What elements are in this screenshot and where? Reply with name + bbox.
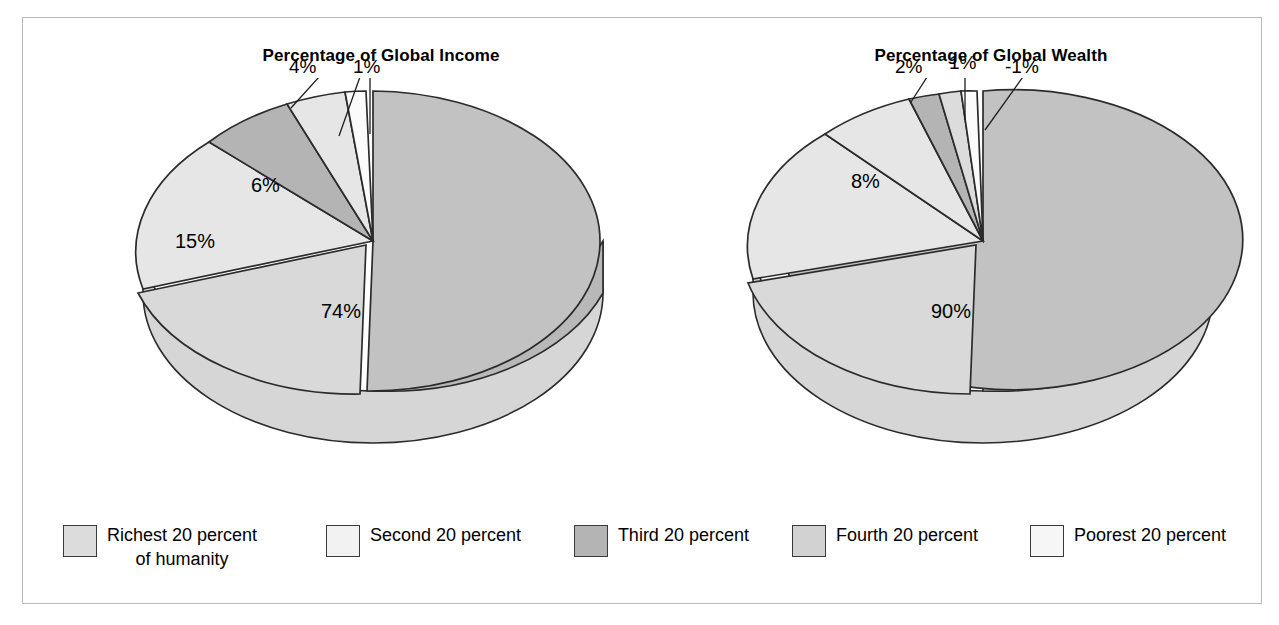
legend-swatch-fourth bbox=[792, 525, 826, 557]
legend-label-third: Third 20 percent bbox=[618, 523, 749, 547]
legend-swatch-third bbox=[574, 525, 608, 557]
chart-title-wealth: Percentage of Global Wealth bbox=[751, 46, 1231, 66]
chart-title-income: Percentage of Global Income bbox=[141, 46, 621, 66]
pie-svg-wealth bbox=[733, 78, 1253, 478]
legend-swatch-second bbox=[326, 525, 360, 557]
pie-label-wealth-neg1: -1% bbox=[1005, 56, 1039, 78]
pie-label-income-74: 74% bbox=[321, 300, 361, 323]
legend-item-poorest: Poorest 20 percent bbox=[1030, 523, 1259, 557]
figure-frame: Percentage of Global Income bbox=[22, 17, 1262, 604]
legend-swatch-poorest bbox=[1030, 525, 1064, 557]
legend: Richest 20 percent of humanity Second 20… bbox=[63, 523, 1263, 603]
legend-label-second: Second 20 percent bbox=[370, 523, 521, 547]
pie-label-income-6: 6% bbox=[251, 174, 280, 197]
legend-label-fourth: Fourth 20 percent bbox=[836, 523, 978, 547]
pie-chart-income: 74% 15% 6% 4% 1% bbox=[123, 78, 643, 478]
pie-svg-income bbox=[123, 78, 643, 478]
legend-item-second: Second 20 percent bbox=[326, 523, 570, 557]
pie-label-wealth-90: 90% bbox=[931, 300, 971, 323]
legend-swatch-richest bbox=[63, 525, 97, 557]
pie-label-income-15: 15% bbox=[175, 230, 215, 253]
legend-item-richest: Richest 20 percent of humanity bbox=[63, 523, 322, 571]
legend-item-third: Third 20 percent bbox=[574, 523, 788, 557]
pie-label-income-1: 1% bbox=[353, 56, 380, 78]
pie-label-wealth-2: 2% bbox=[895, 56, 922, 78]
legend-label-richest: Richest 20 percent of humanity bbox=[107, 523, 257, 571]
pie-chart-wealth: 90% 8% 2% 1% -1% bbox=[733, 78, 1253, 478]
legend-label-poorest: Poorest 20 percent bbox=[1074, 523, 1226, 547]
pie-label-income-4: 4% bbox=[289, 56, 316, 78]
pie-label-wealth-1: 1% bbox=[949, 52, 976, 74]
pie-label-wealth-8: 8% bbox=[851, 170, 880, 193]
legend-item-fourth: Fourth 20 percent bbox=[792, 523, 1026, 557]
